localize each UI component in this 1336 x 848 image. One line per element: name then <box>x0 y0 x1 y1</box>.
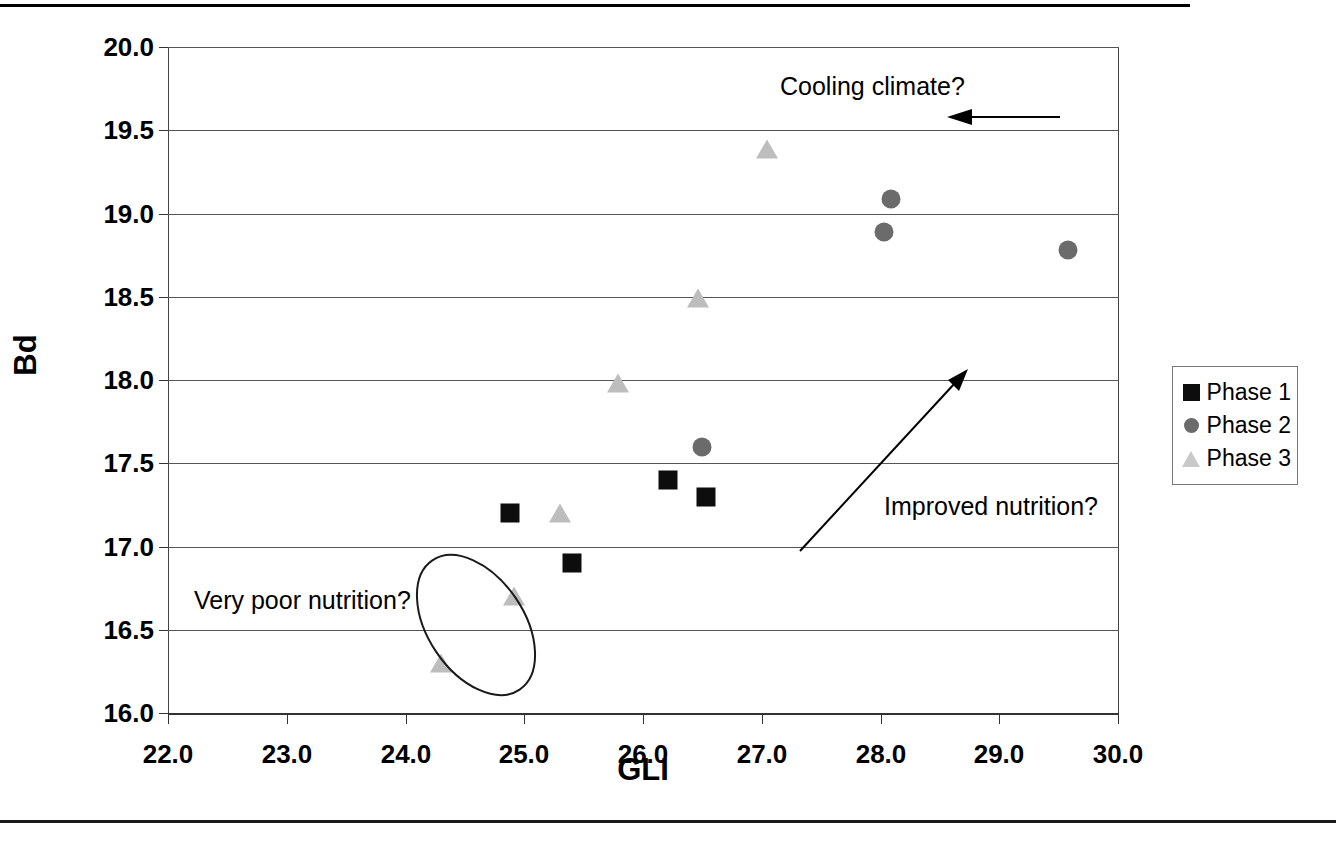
gridline-y-19.5 <box>168 130 1119 131</box>
data-point-phase-2 <box>1059 241 1078 260</box>
gridline-y-19.0 <box>168 214 1119 215</box>
data-point-phase-3 <box>687 289 709 308</box>
x-tick-label-25.0: 25.0 <box>499 739 550 770</box>
gridline-y-17.0 <box>168 547 1119 548</box>
square-glyph <box>1183 384 1200 401</box>
y-tick-18.0 <box>159 380 168 381</box>
y-tick-label-19.0: 19.0 <box>103 199 154 230</box>
x-tick-label-30.0: 30.0 <box>1093 739 1144 770</box>
y-tick-19.5 <box>159 130 168 131</box>
data-point-phase-1 <box>501 504 520 523</box>
chart-legend: Phase 1Phase 2Phase 3 <box>1172 366 1298 485</box>
legend-label: Phase 2 <box>1207 412 1291 439</box>
annotation-very-poor-nutrition: Very poor nutrition? <box>194 586 411 615</box>
y-tick-17.0 <box>159 547 168 548</box>
data-point-phase-3 <box>607 374 629 393</box>
gridline-y-18.5 <box>168 297 1119 298</box>
y-tick-20.0 <box>159 47 168 48</box>
y-tick-19.0 <box>159 214 168 215</box>
circle-marker-icon <box>1181 418 1202 433</box>
y-tick-label-18.5: 18.5 <box>103 282 154 313</box>
x-tick-label-23.0: 23.0 <box>262 739 313 770</box>
y-tick-label-20.0: 20.0 <box>103 32 154 63</box>
x-tick-label-29.0: 29.0 <box>974 739 1025 770</box>
x-axis-title: GLI <box>617 752 669 788</box>
x-tick-label-27.0: 27.0 <box>737 739 788 770</box>
y-tick-16.5 <box>159 630 168 631</box>
triangle-glyph <box>1182 451 1200 467</box>
data-point-phase-2 <box>875 222 894 241</box>
legend-item-phase-1[interactable]: Phase 1 <box>1181 376 1291 409</box>
circle-glyph <box>1184 418 1199 433</box>
y-tick-label-16.5: 16.5 <box>103 615 154 646</box>
y-tick-label-19.5: 19.5 <box>103 115 154 146</box>
data-point-phase-2 <box>882 189 901 208</box>
data-point-phase-3 <box>430 654 452 673</box>
x-tick-23.0 <box>287 713 288 724</box>
page-top-rule <box>0 4 1190 7</box>
x-tick-26.0 <box>643 713 644 724</box>
data-point-phase-1 <box>658 470 677 489</box>
gridline-y-17.5 <box>168 463 1119 464</box>
page-bottom-rule <box>0 820 1336 823</box>
legend-item-phase-3[interactable]: Phase 3 <box>1181 442 1291 475</box>
data-point-phase-3 <box>756 139 778 158</box>
figure-page: 16.016.517.017.518.018.519.019.520.0 22.… <box>0 0 1336 848</box>
y-tick-18.5 <box>159 297 168 298</box>
gridline-y-20.0 <box>168 47 1119 48</box>
x-tick-label-22.0: 22.0 <box>143 739 194 770</box>
y-axis-title: Bd <box>8 334 44 375</box>
gridline-y-16.5 <box>168 630 1119 631</box>
legend-item-phase-2[interactable]: Phase 2 <box>1181 409 1291 442</box>
square-marker-icon <box>1181 384 1202 401</box>
y-tick-label-18.0: 18.0 <box>103 365 154 396</box>
x-tick-label-28.0: 28.0 <box>856 739 907 770</box>
x-tick-25.0 <box>524 713 525 724</box>
x-tick-24.0 <box>406 713 407 724</box>
data-point-phase-3 <box>503 587 525 606</box>
data-point-phase-2 <box>693 437 712 456</box>
annotation-improved-nutrition: Improved nutrition? <box>884 492 1098 521</box>
legend-label: Phase 1 <box>1207 379 1291 406</box>
data-point-phase-1 <box>696 487 715 506</box>
gridline-y-18.0 <box>168 380 1119 381</box>
x-tick-29.0 <box>999 713 1000 724</box>
x-tick-label-24.0: 24.0 <box>381 739 432 770</box>
y-tick-17.5 <box>159 463 168 464</box>
data-point-phase-1 <box>562 554 581 573</box>
data-point-phase-3 <box>549 504 571 523</box>
x-tick-28.0 <box>881 713 882 724</box>
y-tick-label-17.0: 17.0 <box>103 532 154 563</box>
x-tick-27.0 <box>762 713 763 724</box>
y-tick-label-16.0: 16.0 <box>103 698 154 729</box>
legend-label: Phase 3 <box>1207 445 1291 472</box>
triangle-marker-icon <box>1181 451 1202 467</box>
x-tick-30.0 <box>1118 713 1119 724</box>
y-tick-16.0 <box>159 713 168 714</box>
y-tick-label-17.5: 17.5 <box>103 448 154 479</box>
x-tick-22.0 <box>168 713 169 724</box>
annotation-cooling-climate: Cooling climate? <box>780 72 965 101</box>
